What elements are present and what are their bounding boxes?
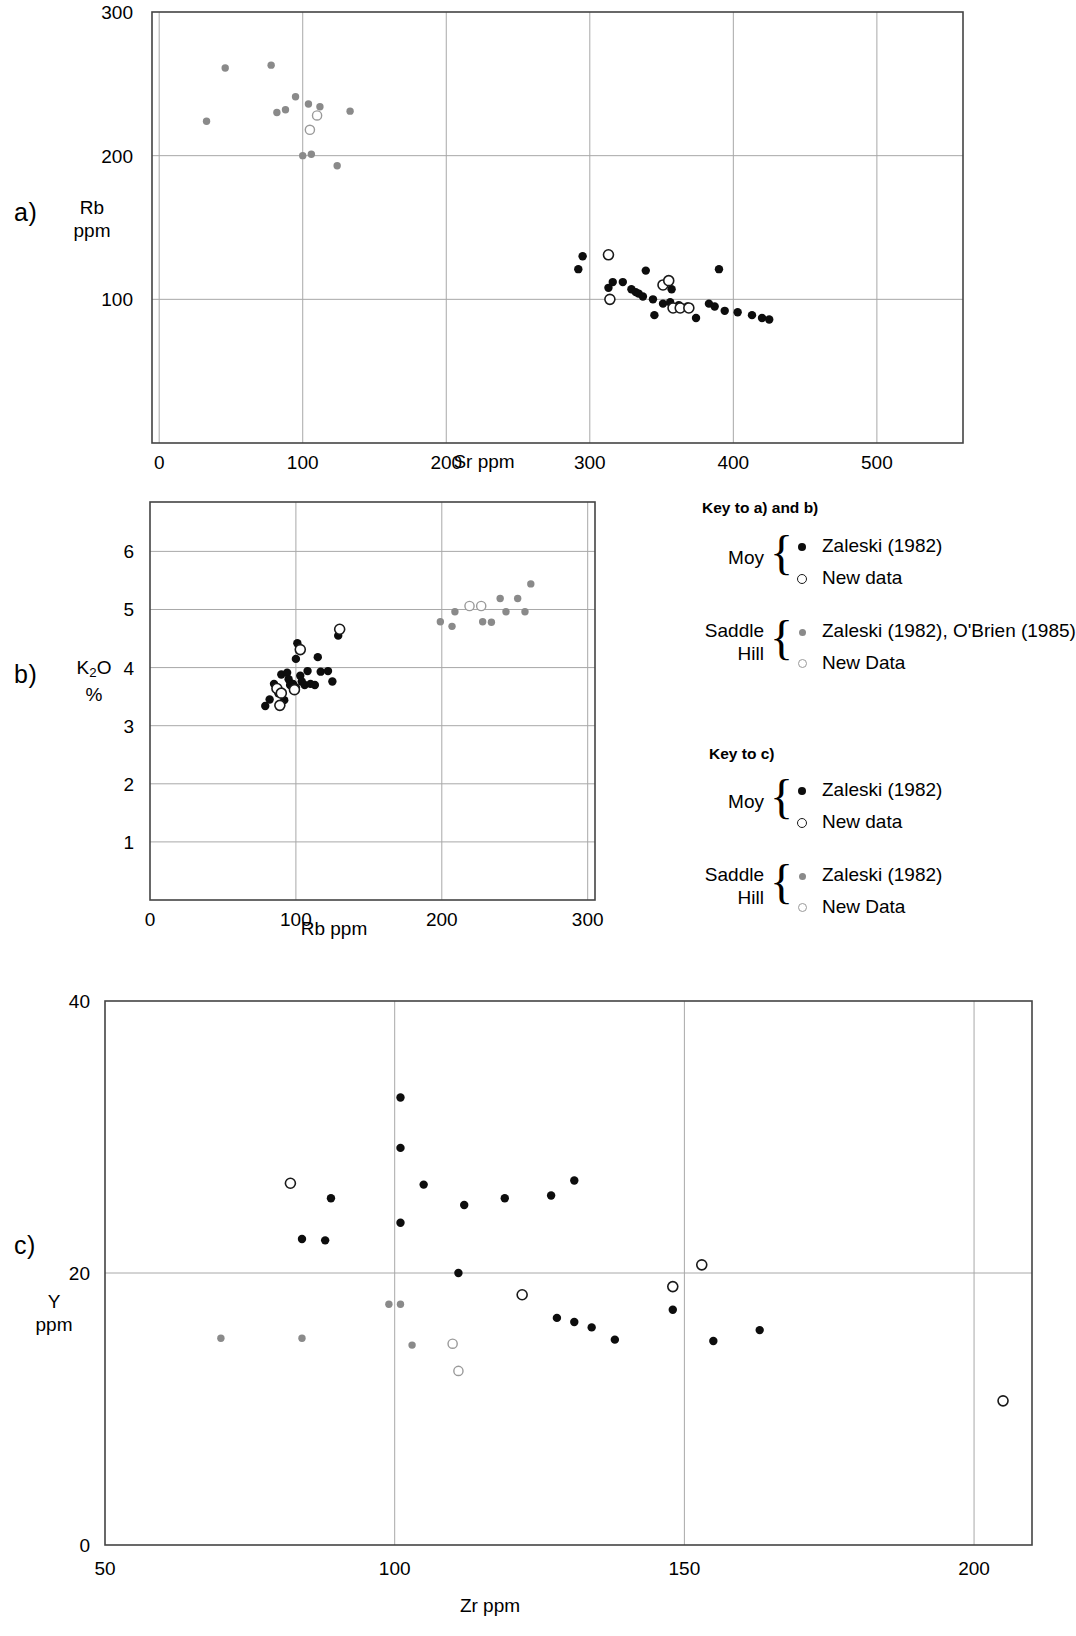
legend-c-group-moy-brace: { bbox=[770, 773, 793, 821]
data-point bbox=[437, 618, 444, 625]
data-point bbox=[547, 1191, 555, 1199]
panel-c-plot: 5010015020002040 bbox=[0, 950, 1071, 1636]
data-point bbox=[328, 677, 336, 685]
x-tick-label: 500 bbox=[861, 452, 893, 473]
data-point bbox=[312, 111, 321, 120]
x-tick-label: 400 bbox=[717, 452, 749, 473]
y-tick-label: 200 bbox=[101, 146, 133, 167]
y-tick-label: 20 bbox=[69, 1263, 90, 1284]
data-point bbox=[289, 685, 299, 695]
data-point bbox=[570, 1318, 578, 1326]
x-tick-label: 200 bbox=[958, 1558, 990, 1579]
data-point bbox=[397, 1301, 404, 1308]
data-point bbox=[222, 64, 229, 71]
data-point bbox=[317, 667, 325, 675]
data-point bbox=[659, 299, 667, 307]
data-point bbox=[316, 103, 323, 110]
data-point bbox=[521, 608, 528, 615]
legend-a-b-title: Key to a) and b) bbox=[702, 499, 818, 517]
data-point bbox=[305, 100, 312, 107]
legend-c-entry-moy-zaleski: Zaleski (1982) bbox=[822, 779, 942, 801]
data-point bbox=[346, 107, 353, 114]
legend-c-entry-saddle-new: New Data bbox=[822, 896, 905, 918]
legend-a-b-symbol-moy-filled bbox=[798, 543, 806, 551]
data-point bbox=[311, 681, 319, 689]
data-point bbox=[276, 688, 286, 698]
legend-a-b-group-saddle-name-line1: Saddle bbox=[622, 619, 764, 642]
legend-c-symbol-saddle-open bbox=[798, 903, 807, 912]
legend-c-group-moy-name: Moy bbox=[622, 790, 764, 813]
data-point bbox=[605, 294, 615, 304]
data-point bbox=[664, 276, 674, 286]
data-point bbox=[385, 1301, 392, 1308]
panel-c: c) Y ppm Zr ppm 5010015020002040 bbox=[0, 950, 1071, 1636]
data-point bbox=[396, 1218, 404, 1226]
legend-a-b-group-saddle-name-line2: Hill bbox=[622, 642, 764, 665]
data-point bbox=[267, 61, 274, 68]
x-tick-label: 50 bbox=[94, 1558, 115, 1579]
data-point bbox=[419, 1180, 427, 1188]
data-point bbox=[460, 1201, 468, 1209]
legend-a-b-symbol-moy-open bbox=[797, 574, 807, 584]
data-point bbox=[668, 1282, 678, 1292]
legend-a-b-entry-moy-new: New data bbox=[822, 567, 902, 589]
legend-c-title: Key to c) bbox=[709, 745, 774, 763]
x-tick-label: 0 bbox=[145, 909, 156, 930]
x-tick-label: 0 bbox=[154, 452, 165, 473]
y-tick-label: 300 bbox=[101, 2, 133, 23]
data-point bbox=[755, 1326, 763, 1334]
data-point bbox=[308, 151, 315, 158]
data-point bbox=[292, 93, 299, 100]
data-point bbox=[298, 1335, 305, 1342]
data-point bbox=[292, 655, 300, 663]
data-point bbox=[697, 1260, 707, 1270]
data-point bbox=[298, 1235, 306, 1243]
data-point bbox=[273, 109, 280, 116]
data-point bbox=[998, 1396, 1008, 1406]
x-tick-label: 100 bbox=[287, 452, 319, 473]
data-point bbox=[295, 645, 305, 655]
data-point bbox=[396, 1093, 404, 1101]
data-point bbox=[619, 278, 627, 286]
data-point bbox=[517, 1290, 527, 1300]
y-tick-label: 2 bbox=[123, 774, 134, 795]
data-point bbox=[709, 1337, 717, 1345]
data-point bbox=[488, 619, 495, 626]
data-point bbox=[765, 315, 773, 323]
data-point bbox=[321, 1236, 329, 1244]
data-point bbox=[692, 314, 700, 322]
data-point bbox=[496, 595, 503, 602]
data-point bbox=[448, 1339, 457, 1348]
legend-a-b-group-moy-brace: { bbox=[770, 529, 793, 577]
data-point bbox=[578, 252, 586, 260]
legend-c-group-saddle-brace: { bbox=[770, 858, 793, 906]
data-point bbox=[609, 278, 617, 286]
y-tick-label: 4 bbox=[123, 658, 134, 679]
data-point bbox=[733, 308, 741, 316]
legend-a-b-entry-saddle-new: New Data bbox=[822, 652, 905, 674]
x-tick-label: 100 bbox=[280, 909, 312, 930]
legend-a-b-entry-saddle-zaleski: Zaleski (1982), O'Brien (1985) bbox=[822, 620, 1076, 642]
panel-a: a) Rb ppm Sr ppm 01002003004005001002003… bbox=[0, 0, 1071, 480]
data-point bbox=[217, 1335, 224, 1342]
y-tick-label: 6 bbox=[123, 541, 134, 562]
data-point bbox=[603, 250, 613, 260]
y-tick-label: 3 bbox=[123, 716, 134, 737]
x-tick-label: 300 bbox=[572, 909, 604, 930]
data-point bbox=[684, 303, 694, 313]
data-point bbox=[314, 653, 322, 661]
legend-c-symbol-moy-open bbox=[797, 818, 807, 828]
y-tick-label: 5 bbox=[123, 599, 134, 620]
legend-c-symbol-saddle-filled bbox=[799, 873, 806, 880]
data-point bbox=[333, 162, 340, 169]
legend-a-b-group-saddle-brace: { bbox=[770, 614, 793, 662]
x-tick-label: 100 bbox=[379, 1558, 411, 1579]
data-point bbox=[408, 1341, 415, 1348]
data-point bbox=[477, 601, 486, 610]
y-tick-label: 40 bbox=[69, 991, 90, 1012]
legend-c-group-saddle-name-line2: Hill bbox=[622, 886, 764, 909]
legend-a-b-group-moy-name: Moy bbox=[622, 546, 764, 569]
data-point bbox=[574, 265, 582, 273]
data-point bbox=[479, 618, 486, 625]
